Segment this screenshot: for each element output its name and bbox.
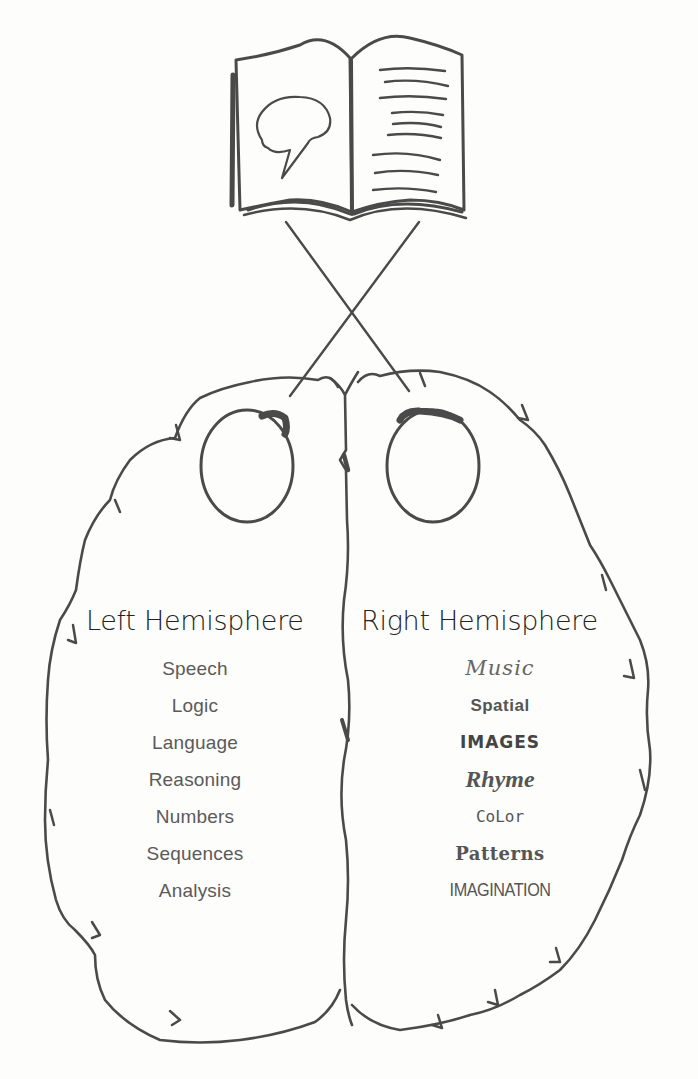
left-item-sequences: Sequences (100, 835, 290, 872)
right-item-music: Music (465, 656, 534, 680)
right-hemisphere-title: Right Hemisphere (361, 605, 598, 636)
right-item-images: IMAGES (460, 732, 540, 752)
right-item-patterns: Patterns (455, 843, 545, 864)
text-lines-icon (373, 68, 448, 192)
open-book-icon (232, 36, 466, 220)
left-item-analysis: Analysis (100, 872, 290, 909)
left-item-logic: Logic (100, 687, 290, 724)
right-item-spatial: Spatial (470, 696, 529, 715)
right-eye-circle (387, 410, 479, 522)
left-item-language: Language (100, 724, 290, 761)
right-item-rhyme: Rhyme (465, 766, 534, 792)
brain-speech-bubble-icon (257, 97, 330, 178)
right-hemisphere-list: Music Spatial IMAGES Rhyme CoLor Pattern… (400, 650, 600, 909)
brain-book-sketch (0, 0, 698, 1079)
left-item-reasoning: Reasoning (100, 761, 290, 798)
right-item-color: CoLor (476, 807, 524, 826)
left-hemisphere-list: Speech Logic Language Reasoning Numbers … (100, 650, 290, 909)
left-item-numbers: Numbers (100, 798, 290, 835)
left-eye-circle (201, 410, 293, 522)
crossing-optic-lines (286, 222, 419, 396)
left-hemisphere-title: Left Hemisphere (86, 605, 304, 636)
left-item-speech: Speech (100, 650, 290, 687)
right-item-imagination: IMAGINATION (450, 872, 551, 909)
